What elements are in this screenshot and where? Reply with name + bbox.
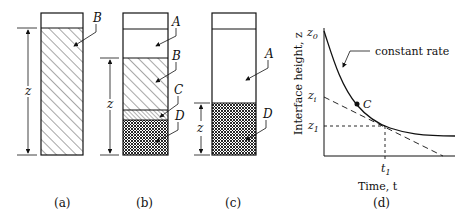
zone-b-fill xyxy=(41,28,83,155)
caption-d: (d) xyxy=(373,196,390,210)
dimension-z-label: z xyxy=(106,97,114,111)
settling-diagram: z B (a) z A B C D (b) xyxy=(0,0,475,222)
pointer-a xyxy=(246,60,268,80)
tangent-line xyxy=(324,97,443,156)
caption-c: (c) xyxy=(225,196,241,210)
dimension-z-label: z xyxy=(24,84,32,98)
label-c: C xyxy=(174,83,183,97)
panel-d: C constant rate z0 zi z1 t1 Time, t Inte… xyxy=(292,26,455,210)
label-a: A xyxy=(264,47,274,61)
caption-a: (a) xyxy=(54,196,71,210)
caption-b: (b) xyxy=(136,196,153,210)
label-b: B xyxy=(92,11,102,25)
zone-c-fill xyxy=(123,110,168,120)
tick-z0: z0 xyxy=(306,26,318,41)
panel-c: z A D (c) xyxy=(194,13,274,210)
zone-d-fill xyxy=(123,120,168,155)
dimension-z-label: z xyxy=(196,121,204,135)
tick-zi: zi xyxy=(307,89,317,104)
point-c xyxy=(355,102,360,107)
zone-b-fill xyxy=(123,58,168,110)
zone-d-fill xyxy=(212,103,256,155)
constant-rate-pointer xyxy=(343,51,370,67)
label-d: D xyxy=(174,109,185,123)
tick-z1: z1 xyxy=(307,119,319,134)
panel-a: z B (a) xyxy=(17,11,102,210)
x-axis-label: Time, t xyxy=(358,180,398,193)
pointer-a xyxy=(156,28,176,46)
label-d: D xyxy=(262,107,273,121)
point-c-label: C xyxy=(363,98,372,111)
constant-rate-label: constant rate xyxy=(375,45,449,58)
label-b: B xyxy=(171,49,181,63)
panel-b: z A B C D (b) xyxy=(100,13,185,210)
label-a: A xyxy=(171,15,181,29)
y-axis-label: Interface height, z xyxy=(292,32,305,135)
tick-t1: t1 xyxy=(381,162,391,177)
